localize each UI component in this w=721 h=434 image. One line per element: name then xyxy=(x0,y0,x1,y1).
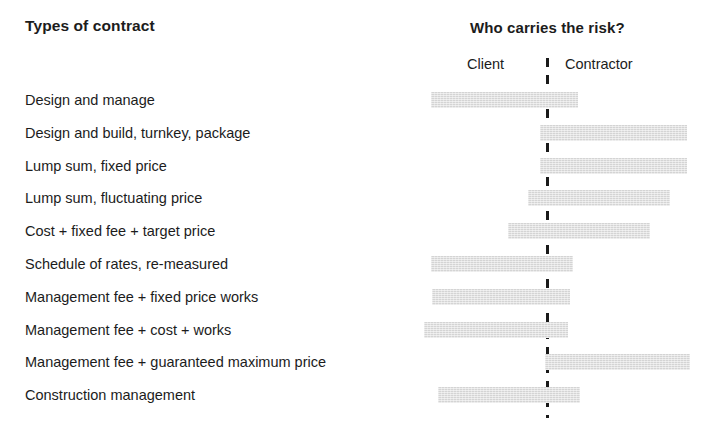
risk-span-bar xyxy=(528,190,670,206)
risk-span-bar xyxy=(540,158,687,174)
axis-label-client: Client xyxy=(467,56,504,72)
risk-span-bar xyxy=(431,256,573,272)
table-row: Construction management xyxy=(0,384,721,406)
risk-allocation-chart: Types of contract Who carries the risk? … xyxy=(0,0,721,434)
table-row: Lump sum, fixed price xyxy=(0,155,721,177)
axis-label-contractor: Contractor xyxy=(565,56,633,72)
table-row: Schedule of rates, re-measured xyxy=(0,253,721,275)
contract-type-label: Lump sum, fluctuating price xyxy=(25,187,202,209)
contract-type-label: Lump sum, fixed price xyxy=(25,155,167,177)
table-row: Management fee + fixed price works xyxy=(0,286,721,308)
contract-type-label: Schedule of rates, re-measured xyxy=(25,253,228,275)
table-row: Management fee + cost + works xyxy=(0,319,721,341)
contract-type-label: Construction management xyxy=(25,384,195,406)
risk-span-bar xyxy=(431,92,578,108)
risk-span-bar xyxy=(545,354,690,370)
risk-span-bar xyxy=(424,322,568,338)
contract-type-label: Management fee + guaranteed maximum pric… xyxy=(25,351,326,373)
risk-span-bar xyxy=(540,125,687,141)
contract-type-label: Management fee + fixed price works xyxy=(25,286,258,308)
risk-span-bar xyxy=(438,387,580,403)
risk-span-bar xyxy=(432,289,570,305)
contract-type-label: Management fee + cost + works xyxy=(25,319,231,341)
contract-type-label: Cost + fixed fee + target price xyxy=(25,220,215,242)
page-title: Types of contract xyxy=(25,17,155,35)
risk-span-bar xyxy=(508,223,650,239)
table-row: Design and manage xyxy=(0,89,721,111)
chart-title: Who carries the risk? xyxy=(470,19,625,36)
contract-type-label: Design and manage xyxy=(25,89,155,111)
table-row: Cost + fixed fee + target price xyxy=(0,220,721,242)
contract-type-label: Design and build, turnkey, package xyxy=(25,122,250,144)
table-row: Lump sum, fluctuating price xyxy=(0,187,721,209)
table-row: Design and build, turnkey, package xyxy=(0,122,721,144)
table-row: Management fee + guaranteed maximum pric… xyxy=(0,351,721,373)
